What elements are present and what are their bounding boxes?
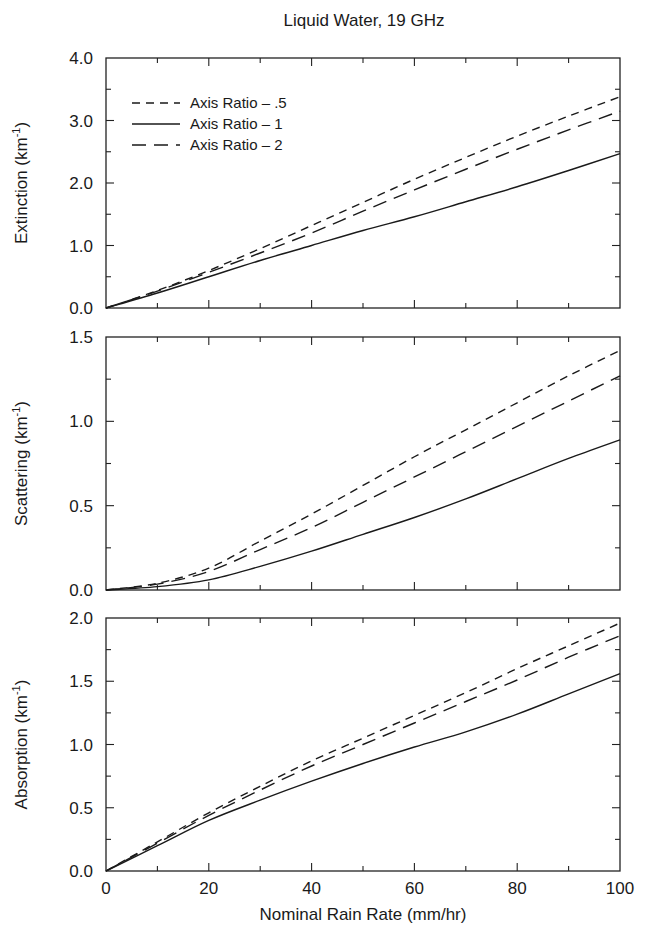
- y-tick-label: 3.0: [69, 112, 93, 131]
- y-tick-label: 2.0: [69, 609, 93, 628]
- series-short-dash: [106, 350, 620, 590]
- y-tick-label: 0.0: [69, 581, 93, 600]
- x-tick-label: 0: [101, 879, 110, 898]
- chart-title: Liquid Water, 19 GHz: [284, 11, 445, 30]
- x-tick-label: 80: [508, 879, 527, 898]
- x-tick-label: 60: [405, 879, 424, 898]
- series-solid: [106, 440, 620, 590]
- y-tick-label: 1.5: [69, 328, 93, 347]
- x-axis-label: Nominal Rain Rate (mm/hr): [260, 905, 467, 924]
- x-tick-label: 40: [302, 879, 321, 898]
- y-tick-label: 0.5: [69, 497, 93, 516]
- series-short-dash: [106, 97, 620, 308]
- series-long-dash: [106, 111, 620, 308]
- x-tick-label: 100: [606, 879, 634, 898]
- y-axis-label: Extinction (km-1): [10, 122, 31, 244]
- series-short-dash: [106, 623, 620, 871]
- y-axis-label: Scattering (km-1): [10, 401, 31, 526]
- series-solid: [106, 154, 620, 308]
- y-axis-label: Absorption (km-1): [10, 680, 31, 810]
- y-tick-label: 2.0: [69, 174, 93, 193]
- y-tick-label: 1.0: [69, 412, 93, 431]
- panel-absorption: 0.00.51.01.52.0020406080100Absorption (k…: [10, 609, 634, 898]
- legend-label: Axis Ratio – .5: [190, 94, 287, 111]
- panel-extinction: 0.01.02.03.04.0Extinction (km-1): [10, 49, 620, 318]
- y-tick-label: 4.0: [69, 49, 93, 68]
- series-long-dash: [106, 376, 620, 590]
- legend-label: Axis Ratio – 2: [190, 136, 283, 153]
- panel-scattering: 0.00.51.01.5Scattering (km-1): [10, 328, 620, 600]
- series-long-dash: [106, 636, 620, 871]
- plot-frame: [106, 58, 620, 308]
- legend: Axis Ratio – .5 Axis Ratio – 1 Axis Rati…: [132, 94, 287, 153]
- y-tick-label: 1.0: [69, 736, 93, 755]
- y-tick-label: 1.5: [69, 672, 93, 691]
- y-tick-label: 1.0: [69, 237, 93, 256]
- y-tick-label: 0.5: [69, 799, 93, 818]
- x-tick-label: 20: [199, 879, 218, 898]
- figure: Liquid Water, 19 GHz 0.01.02.03.04.0Exti…: [0, 0, 660, 951]
- y-tick-label: 0.0: [69, 862, 93, 881]
- plot-frame: [106, 337, 620, 590]
- series-solid: [106, 674, 620, 871]
- y-tick-label: 0.0: [69, 299, 93, 318]
- legend-label: Axis Ratio – 1: [190, 115, 283, 132]
